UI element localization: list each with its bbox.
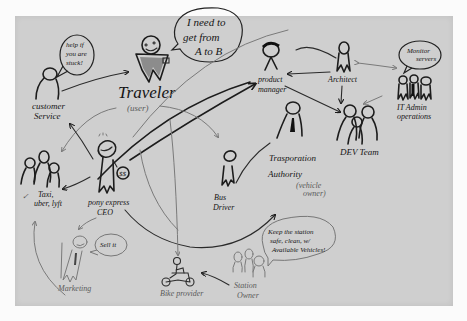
actor-label: DEV Team [339, 147, 379, 157]
speech-bubble: Sell it [90, 234, 127, 256]
actor-label: CEO [97, 208, 113, 217]
arrow-pm-to-dev-team [285, 86, 340, 112]
speech-text: safe, clean, w/ [270, 237, 311, 245]
dollar-badge-icon: $$ [119, 170, 127, 178]
speech-text: Available Vehicles! [271, 246, 326, 254]
speech-bubble: I need to get from A to B [172, 8, 242, 62]
person-icon [222, 149, 237, 186]
speech-bubble: Monitor servers [399, 41, 441, 73]
group-icon [233, 249, 266, 277]
actor-sublabel: owner) [303, 189, 326, 198]
actor-label: Traveler [118, 83, 176, 102]
speech-text: Keep the station [267, 228, 314, 236]
actor-customer-service: help if you are stuck! customer Service [32, 35, 94, 121]
speech-text: Monitor [406, 47, 430, 55]
check-mark-icon: ✓ [22, 192, 29, 201]
speech-text: you are [65, 50, 87, 58]
actor-label: customer [32, 101, 65, 111]
arrow-ceo-to-taxi [63, 177, 90, 189]
stakeholder-diagram: help if you are stuck! customer Service … [0, 0, 467, 321]
arrow-architect-to-it-admin [358, 63, 396, 68]
arrow-authority-to-bus-driver [236, 143, 270, 183]
actor-bus-driver: Bus Driver [212, 149, 237, 212]
arrow-it-admin-to-dev-team [364, 96, 382, 104]
actor-marketing: Sell it Marketing [57, 234, 127, 293]
actor-architect: Architect [327, 42, 358, 84]
person-icon [61, 236, 87, 282]
actor-label: operations [397, 112, 431, 121]
speech-text: help if [66, 41, 85, 49]
arc-ceo-to-marketing [79, 218, 96, 229]
group-icon [337, 105, 377, 144]
bicycle-icon [162, 258, 194, 287]
actor-label: Bike provider [160, 289, 204, 298]
actor-label: Owner [237, 291, 260, 300]
arrow-architect-to-pm [288, 72, 330, 74]
person-icon [337, 42, 350, 72]
actor-dev-team: DEV Team [337, 105, 379, 157]
actor-station-owner: Keep the station safe, clean, w/ Availab… [233, 216, 336, 300]
person-with-tie-icon [277, 102, 302, 138]
speech-text: stuck! [66, 59, 83, 67]
actor-label: product [257, 75, 283, 84]
arrow-traveler-to-customer-service [62, 108, 116, 151]
arc-traveler-to-bike [170, 120, 178, 255]
actor-label: Trasporation [269, 153, 317, 163]
actor-traveler: I need to get from A to B Traveler (user… [118, 8, 242, 113]
speech-text: Sell it [100, 241, 117, 249]
person-icon [36, 68, 59, 99]
arrow-station-owner-to-bike [202, 273, 229, 285]
arc-ceo-to-authority [125, 210, 275, 248]
actor-label: Marketing [57, 284, 91, 293]
actor-label: Authority [267, 169, 302, 179]
smiling-person-icon [136, 36, 169, 82]
group-icon [398, 75, 431, 100]
person-icon [263, 43, 279, 70]
actor-bike-provider: Bike provider [160, 258, 204, 299]
actor-taxi: ✓ Taxi, uber, lyft [21, 151, 63, 208]
speech-text: servers [416, 55, 436, 63]
arc-large-ceo [140, 150, 178, 230]
actor-sublabel: (user) [127, 103, 149, 113]
actor-label: Bus [214, 193, 226, 202]
actor-label: IT Admin [396, 103, 427, 112]
actor-it-admin: Monitor servers IT Admin operations [396, 41, 441, 121]
speech-text: A to B [194, 45, 223, 57]
actor-label: uber, lyft [34, 199, 63, 208]
actor-label: Architect [327, 75, 358, 84]
actor-label: Driver [212, 203, 235, 212]
actor-label: Taxi, [38, 190, 54, 199]
speech-text: I need to [186, 16, 226, 28]
arrow-architect-top-to-pm [296, 47, 336, 58]
arrow-ceo-to-customer-service [70, 124, 93, 159]
actor-label: Station [234, 281, 257, 290]
speech-bubble: help if you are stuck! [57, 35, 94, 77]
actor-label: pony express [87, 198, 129, 207]
actor-transport-authority: Trasporation Authority (vehicle owner) [267, 102, 326, 198]
person-icon: $$ [95, 133, 129, 193]
actor-product-manager: product manager [257, 43, 287, 94]
speech-bubble: Keep the station safe, clean, w/ Availab… [262, 216, 335, 266]
group-icon [21, 151, 59, 187]
arrow-architect-to-dev-team [341, 86, 342, 103]
actor-label: Service [34, 111, 60, 121]
speech-text: get from [183, 31, 220, 43]
actor-label: manager [258, 85, 287, 94]
actor-ceo: $$ pony express CEO [87, 133, 129, 217]
